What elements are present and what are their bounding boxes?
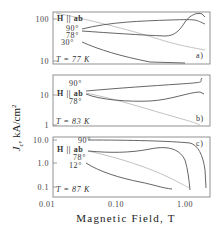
panel-c-temperature: T = 87 K: [56, 185, 90, 194]
panel-c-angle-12: 12°: [69, 161, 82, 170]
panel-c: 10.0 1.0 0.1 90° H || ab 78° 12° T = 87 …: [33, 136, 210, 197]
x-axis-label: Magnetic Field, T: [76, 212, 175, 224]
panel-b: 10 1 90° H || ab 78° T = 83 K b): [40, 75, 210, 130]
panel-c-curve-light: [88, 151, 190, 188]
panel-a-curve-90: [82, 20, 205, 29]
panel-a-ytick-10: 10: [40, 57, 49, 66]
xtick-0.01: 0.01: [39, 200, 55, 209]
panel-c-curve-78: [88, 148, 190, 190]
x-axis: 0.01 0.10 1.00 Magnetic Field, T: [39, 200, 193, 224]
panel-a-temperature: T = 77 K: [56, 55, 90, 64]
panel-a-ytick-100: 100: [36, 15, 50, 24]
panel-a-field-label: H || ab: [57, 14, 83, 23]
svg-text:Jc, kA/cm2: Jc, kA/cm2: [10, 104, 25, 151]
panel-c-curve-12: [86, 163, 172, 189]
panel-c-tag: c): [196, 139, 203, 148]
panel-a-curve-30: [82, 42, 185, 63]
panel-c-ytick-10: 10.0: [33, 136, 49, 145]
panel-c-angle-90: 90°: [78, 136, 91, 145]
panel-a-angle-30: 30°: [61, 38, 74, 47]
panel-a-curve-78: [82, 13, 205, 36]
xtick-1.00: 1.00: [177, 200, 193, 209]
panel-a-tag: a): [196, 51, 203, 60]
panel-b-ytick-10: 10: [40, 91, 49, 100]
panel-c-ytick-1: 1.0: [38, 159, 50, 168]
panel-b-angle-90: 90°: [69, 79, 82, 88]
panel-c-ytick-0.1: 0.1: [38, 183, 50, 192]
panel-c-curve-90: [88, 140, 206, 188]
panel-b-curve-90: [86, 78, 202, 91]
jc-vs-field-figure: 100 10 H || ab 90° 78° 30° T = 77 K a) 1…: [0, 0, 222, 237]
panel-b-temperature: T = 83 K: [56, 117, 90, 126]
panel-b-tag: b): [196, 114, 204, 123]
xtick-0.10: 0.10: [108, 200, 124, 209]
panel-b-angle-78: 78°: [69, 97, 82, 106]
panel-b-ytick-1: 1: [45, 121, 50, 130]
y-axis-label: Jc, kA/cm2: [10, 104, 25, 151]
panel-a: 100 10 H || ab 90° 78° 30° T = 77 K a): [36, 12, 211, 66]
y-label-unit: , kA/cm: [10, 108, 22, 144]
y-label-sup: 2: [10, 104, 18, 108]
panel-b-curve-light: [86, 93, 200, 125]
